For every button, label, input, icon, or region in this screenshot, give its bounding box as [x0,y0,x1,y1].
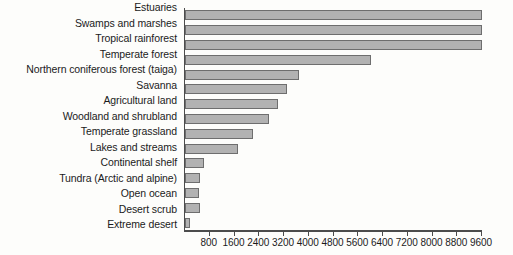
bar [185,55,371,65]
x-tick-label: 6400 [371,237,393,248]
bar-row [185,112,482,127]
x-tick [382,231,383,236]
plot-area [184,8,482,230]
bar [185,173,200,183]
bar [185,10,482,20]
x-tick [407,231,408,236]
category-label: Estuaries [0,0,180,15]
x-tick-label: 7200 [396,237,418,248]
category-label: Swamps and marshes [0,15,180,30]
bar-row [185,215,482,230]
category-label: Extreme desert [0,217,180,232]
x-tick [456,231,457,236]
category-label-column: EstuariesSwamps and marshesTropical rain… [0,0,180,232]
x-tick-label: 9600 [470,237,492,248]
bar [185,218,190,228]
bar-row [185,141,482,156]
bar [185,158,204,168]
bar-row [185,23,482,38]
x-tick-label: 800 [200,237,217,248]
bar-chart: EstuariesSwamps and marshesTropical rain… [0,0,513,255]
bar-row [185,97,482,112]
category-label: Tundra (Arctic and alpine) [0,170,180,185]
category-label: Agricultural land [0,93,180,108]
bar-row [185,8,482,23]
bar-row [185,171,482,186]
category-label: Temperate grassland [0,124,180,139]
bar [185,129,253,139]
x-tick [432,231,433,236]
x-tick-label: 5600 [346,237,368,248]
x-tick [333,231,334,236]
x-tick-label: 1600 [222,237,244,248]
bar [185,144,238,154]
x-tick [234,231,235,236]
x-tick-label: 8800 [445,237,467,248]
bar [185,70,299,80]
bar-row [185,52,482,67]
bar [185,40,482,50]
x-axis-tick-labels: 8001600240032004000480056006400720080008… [0,237,513,251]
x-tick [258,231,259,236]
x-tick-label: 8000 [420,237,442,248]
x-tick [357,231,358,236]
bar-row [185,38,482,53]
x-tick-label: 4800 [321,237,343,248]
category-label: Savanna [0,77,180,92]
x-tick [481,231,482,236]
x-tick-label: 2400 [247,237,269,248]
bar [185,114,269,124]
bar-row [185,156,482,171]
bar-row [185,82,482,97]
bar-row [185,200,482,215]
x-tick [209,231,210,236]
category-label: Northern coniferous forest (taiga) [0,62,180,77]
bar [185,25,482,35]
bar [185,84,287,94]
bar [185,99,278,109]
x-tick [283,231,284,236]
bar [185,203,200,213]
category-label: Open ocean [0,186,180,201]
bar-row [185,186,482,201]
category-label: Continental shelf [0,155,180,170]
x-tick [308,231,309,236]
category-label: Lakes and streams [0,139,180,154]
bar-rows [185,8,482,230]
bar-row [185,126,482,141]
category-label: Woodland and shrubland [0,108,180,123]
bar-row [185,67,482,82]
category-label: Temperate forest [0,46,180,61]
bar [185,188,199,198]
x-tick-label: 4000 [297,237,319,248]
x-tick-label: 3200 [272,237,294,248]
category-label: Tropical rainforest [0,31,180,46]
category-label: Desert scrub [0,201,180,216]
